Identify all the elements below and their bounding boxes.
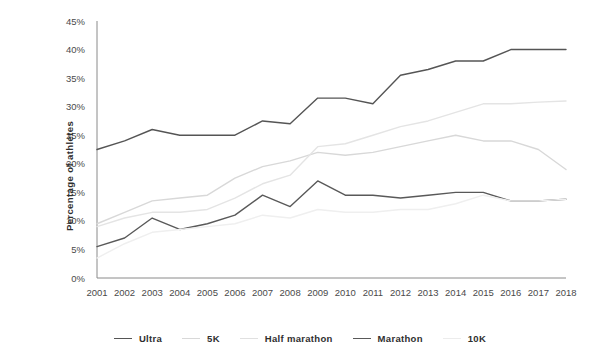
legend-item-label: 5K — [207, 333, 220, 344]
x-axis-tick-label: 2007 — [252, 287, 273, 298]
legend-item-10k[interactable]: 10K — [443, 333, 486, 344]
x-axis-tick-label: 2003 — [142, 287, 163, 298]
x-axis-tick-label: 2011 — [363, 287, 383, 298]
legend-item-5k[interactable]: 5K — [182, 333, 220, 344]
series-lines — [97, 50, 566, 258]
legend-item-ultra[interactable]: Ultra — [114, 333, 162, 344]
x-axis-tick-label: 2017 — [528, 287, 549, 298]
x-axis-tick-label: 2004 — [169, 287, 190, 298]
y-axis-tick-label: 30% — [66, 101, 86, 112]
x-axis-tick-label: 2015 — [473, 287, 494, 298]
legend-line-icon — [114, 338, 132, 339]
x-axis-tick-label: 2013 — [417, 287, 438, 298]
legend-item-label: Half marathon — [265, 333, 333, 344]
y-axis-title: Percentage of athletes — [64, 121, 75, 231]
legend-item-label: Marathon — [378, 333, 423, 344]
series-line-marathon — [97, 181, 566, 247]
y-axis-tick-label: 45% — [66, 16, 86, 27]
chart-legend: Ultra5KHalf marathonMarathon10K — [0, 333, 600, 344]
y-axis-tick-label: 40% — [66, 44, 86, 55]
y-axis-tick-label: 35% — [66, 73, 86, 84]
x-axis-tick-labels: 2001200220032004200520062007200820092010… — [86, 287, 576, 298]
x-axis-tick-label: 2006 — [224, 287, 245, 298]
x-axis-tick-label: 2002 — [114, 287, 135, 298]
y-axis-tick-label: 0% — [71, 273, 85, 284]
legend-item-half-marathon[interactable]: Half marathon — [240, 333, 333, 344]
x-axis-tick-label: 2001 — [86, 287, 107, 298]
series-line-ultra — [97, 50, 566, 150]
legend-item-label: 10K — [468, 333, 486, 344]
series-line-10k — [97, 195, 566, 258]
y-axis-tick-label: 5% — [71, 244, 85, 255]
legend-line-icon — [443, 338, 461, 339]
legend-line-icon — [182, 338, 200, 339]
x-axis-tick-label: 2008 — [280, 287, 301, 298]
x-axis-tick-label: 2014 — [445, 287, 466, 298]
chart-plot-area: 0%5%10%15%20%25%30%35%40%45% 20012002200… — [0, 0, 600, 310]
legend-line-icon — [240, 338, 258, 339]
x-axis-tick-label: 2010 — [335, 287, 356, 298]
x-axis-tick-label: 2018 — [555, 287, 576, 298]
legend-line-icon — [353, 338, 371, 339]
legend-item-label: Ultra — [139, 333, 162, 344]
x-axis-tick-label: 2016 — [500, 287, 521, 298]
legend-item-marathon[interactable]: Marathon — [353, 333, 423, 344]
x-axis-tick-label: 2009 — [307, 287, 328, 298]
x-axis-tick-label: 2005 — [197, 287, 218, 298]
x-axis-tick-label: 2012 — [390, 287, 411, 298]
line-chart: Percentage of athletes 0%5%10%15%20%25%3… — [0, 0, 600, 352]
series-line-half-marathon — [97, 101, 566, 227]
